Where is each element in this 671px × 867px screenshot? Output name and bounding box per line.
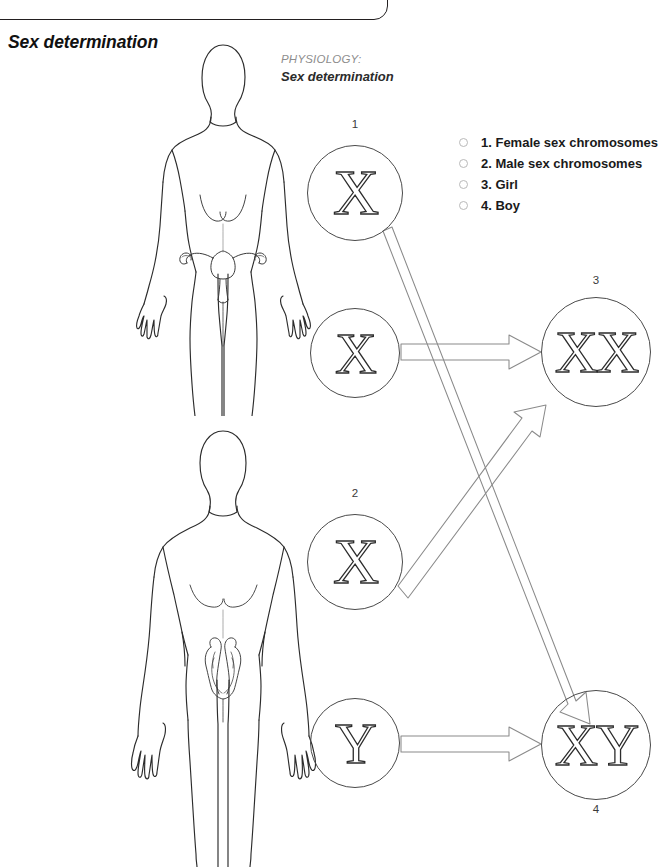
chromosome-number-1: 1 [325, 118, 385, 130]
chromosome-circle-xx[interactable]: XX [541, 297, 651, 407]
page-root: Sex determination PHYSIOLOGY: Sex determ… [0, 0, 671, 867]
chromosome-glyph: X [308, 515, 402, 609]
chromosome-glyph: Y [311, 699, 399, 787]
chromosome-circle-male-y[interactable]: Y [310, 698, 400, 788]
chromosome-glyph: XX [542, 298, 650, 406]
chromosome-number-4: 4 [566, 803, 626, 815]
chromosome-number-2: 2 [325, 487, 385, 499]
arrow-male-y-to-xy [401, 727, 541, 761]
chromosome-glyph: XY [542, 691, 650, 799]
chromosome-circle-xy[interactable]: XY [541, 690, 651, 800]
chromosome-circle-female-x2[interactable]: X [310, 308, 400, 398]
chromosome-circle-male-x[interactable]: X [307, 514, 403, 610]
arrow-female-x-to-xy [383, 227, 590, 724]
chromosome-circle-female-x1[interactable]: X [307, 145, 403, 241]
chromosome-glyph: X [311, 309, 399, 397]
chromosome-number-3: 3 [566, 274, 626, 286]
chromosome-glyph: X [308, 146, 402, 240]
arrow-female-x-to-xx [401, 335, 541, 369]
